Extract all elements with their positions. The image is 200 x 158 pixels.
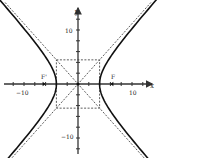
- x-tick-label-10: 10: [129, 89, 137, 96]
- left-branch: [0, 0, 56, 158]
- hyperbola-diagram: x y −10 10 10 −10 F' F: [0, 0, 200, 158]
- origin-point: [76, 82, 79, 85]
- y-tick-label-10: 10: [65, 27, 73, 34]
- y-axis-label: y: [74, 8, 79, 16]
- axes: [4, 8, 152, 154]
- x-tick-label-neg10: −10: [16, 89, 29, 96]
- hyperbola-branches: [0, 0, 168, 158]
- focus-label-f: F: [111, 73, 115, 80]
- x-axis-label: x: [150, 82, 154, 90]
- y-tick-label-neg10: −10: [61, 133, 74, 140]
- right-branch: [100, 0, 168, 158]
- focus-label-f-prime: F': [41, 73, 47, 80]
